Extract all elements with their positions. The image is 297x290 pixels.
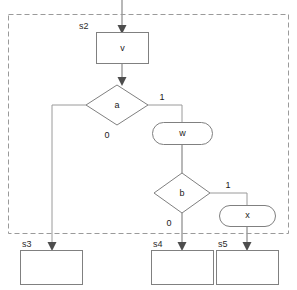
node-v-label: v: [120, 43, 125, 53]
edge-v-to-a: [118, 63, 127, 86]
edge-x-to-s5: [243, 227, 252, 251]
edge-b-to-s4: [178, 213, 187, 251]
node-x[interactable]: x: [220, 206, 276, 227]
edge-b-to-x: [210, 193, 247, 206]
edge-label-a-true: 1: [159, 92, 164, 102]
edge-label-b-true: 1: [225, 180, 230, 190]
edge-label-b-false: 0: [166, 218, 171, 228]
node-s4[interactable]: [152, 251, 214, 285]
node-b[interactable]: b: [154, 173, 210, 213]
node-v[interactable]: v: [97, 33, 149, 64]
state-label-s2: s2: [79, 21, 89, 31]
node-s5[interactable]: [217, 251, 279, 285]
edge-entry-to-v: [118, 0, 127, 34]
node-a-label: a: [114, 100, 119, 110]
edge-a-to-w: [148, 105, 182, 122]
state-label-s5: s5: [218, 239, 228, 249]
edge-a-to-s3: [48, 105, 87, 251]
edge-label-a-false: 0: [104, 130, 109, 140]
node-w[interactable]: w: [153, 123, 213, 145]
flowchart-canvas: v s2 a 0 1 w b 0 1 x s3: [0, 0, 297, 290]
node-b-label: b: [179, 188, 184, 198]
state-label-s3: s3: [22, 239, 32, 249]
node-w-label: w: [178, 128, 186, 138]
node-s3[interactable]: [21, 251, 83, 285]
flowchart-svg: v s2 a 0 1 w b 0 1 x s3: [0, 0, 297, 290]
node-x-label: x: [245, 210, 250, 220]
node-a[interactable]: a: [86, 85, 148, 125]
state-label-s4: s4: [153, 239, 163, 249]
